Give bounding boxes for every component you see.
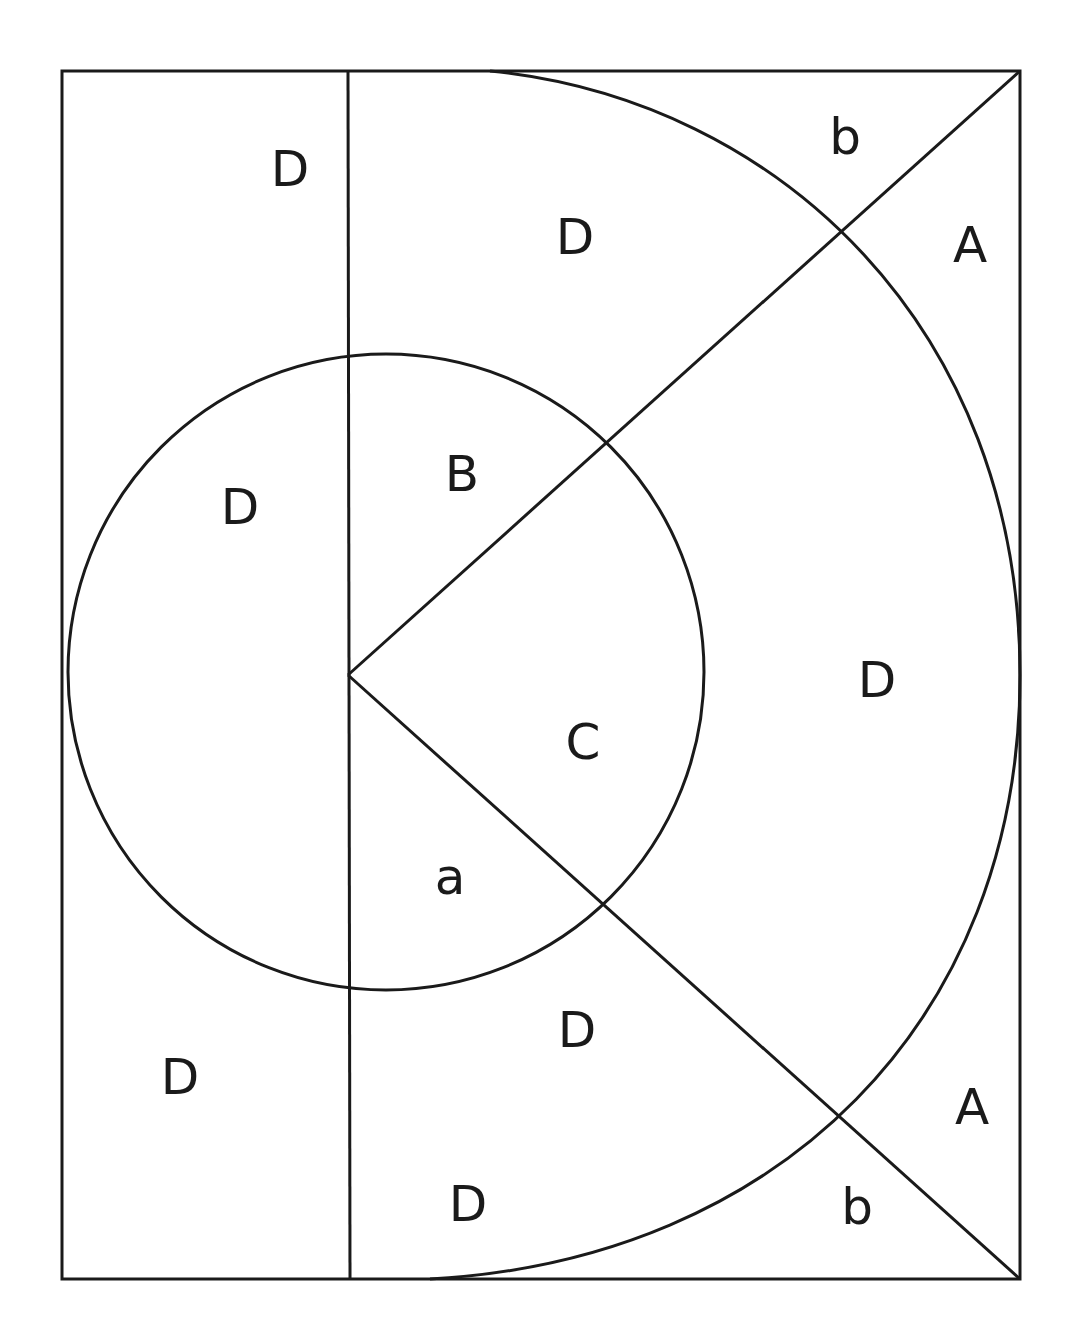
region-label: C (566, 713, 601, 771)
region-label: D (449, 1175, 488, 1233)
region-label: B (445, 445, 479, 503)
region-label: b (829, 108, 861, 166)
region-label: D (556, 208, 595, 266)
region-label: b (841, 1178, 873, 1236)
region-label: D (271, 140, 310, 198)
region-diagram: D D b A D B D C a D D A D b (0, 0, 1079, 1342)
region-label: D (221, 478, 260, 536)
inner-circle (68, 354, 704, 990)
large-arc (430, 71, 1020, 1279)
region-label: D (161, 1048, 200, 1106)
region-label: D (558, 1001, 597, 1059)
upper-diagonal (348, 71, 1020, 675)
region-label: D (858, 651, 897, 709)
region-label: a (435, 848, 466, 906)
region-label: A (953, 216, 987, 274)
region-label: A (955, 1078, 989, 1136)
